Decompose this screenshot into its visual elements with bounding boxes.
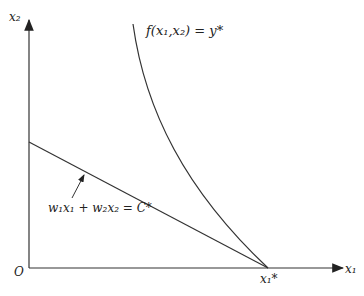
isoquant-label: f(x₁,x₂) = y* xyxy=(146,23,223,38)
y-axis-label: x₂ xyxy=(9,10,21,24)
label-pointer-arrow xyxy=(72,175,84,198)
origin-label: O xyxy=(14,265,24,279)
tangent-point-label: x₁* xyxy=(260,272,278,286)
isoquant-curve xyxy=(133,24,268,268)
x-axis-label: x₁ xyxy=(345,262,357,276)
isocost-label: w₁x₁ + w₂x₂ = C* xyxy=(48,201,152,215)
isoquant-diagram xyxy=(0,0,364,296)
